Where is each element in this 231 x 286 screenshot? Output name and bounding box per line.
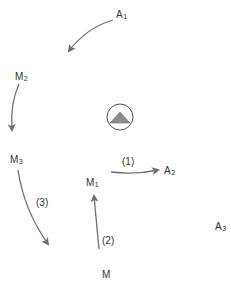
arrow-a1 <box>69 20 113 51</box>
step-label-3: (3) <box>36 198 48 208</box>
node-a2: A2 <box>164 166 175 177</box>
arrows-layer <box>0 0 231 286</box>
step-label-1: (1) <box>122 157 134 167</box>
node-m1: M1 <box>86 178 99 189</box>
node-m3: M3 <box>10 155 23 166</box>
diagram-canvas: A1 M2 M3 M1 A2 A3 M (1) (2) (3) <box>0 0 231 286</box>
arrow-step-1 <box>111 170 158 173</box>
triangle-in-circle-icon <box>107 104 133 130</box>
node-a3: A3 <box>215 222 226 233</box>
arrow-m2-m3 <box>12 84 19 130</box>
step-label-2: (2) <box>102 236 114 246</box>
node-m: M <box>102 270 110 280</box>
node-m2: M2 <box>15 72 28 83</box>
node-a1: A1 <box>116 10 127 21</box>
arrow-step-2 <box>94 196 99 249</box>
